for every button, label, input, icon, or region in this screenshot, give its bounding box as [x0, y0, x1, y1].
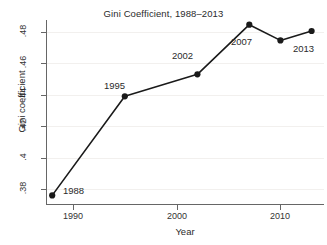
x-tick-label: 1990: [53, 211, 93, 221]
y-tick: [41, 63, 46, 64]
data-series-layer: [0, 0, 327, 245]
gridline: [47, 158, 324, 159]
gridline: [47, 126, 324, 127]
data-point-marker: [194, 71, 200, 77]
x-tick-label: 2000: [157, 211, 197, 221]
gridline: [47, 63, 324, 64]
gridline: [47, 189, 324, 190]
data-point-marker: [277, 37, 283, 43]
data-point-marker: [309, 28, 315, 34]
x-tick: [73, 205, 74, 210]
gridline: [47, 95, 324, 96]
y-tick-label: .38: [18, 175, 28, 201]
y-tick: [41, 126, 46, 127]
point-label: 2007: [231, 36, 252, 47]
point-label: 2013: [293, 43, 314, 54]
y-tick: [41, 95, 46, 96]
x-tick-label: 2010: [260, 211, 300, 221]
y-tick: [41, 32, 46, 33]
x-tick: [280, 205, 281, 210]
x-tick: [177, 205, 178, 210]
gini-series-markers: [49, 22, 315, 199]
x-axis-line: [46, 204, 324, 205]
data-point-marker: [246, 22, 252, 28]
data-point-marker: [49, 192, 55, 198]
y-tick: [41, 158, 46, 159]
x-axis-title: Year: [46, 226, 324, 237]
y-axis-title: Gini coefficient: [16, 37, 27, 167]
chart-title: Gini Coefficient, 1988–2013: [0, 8, 327, 19]
point-label: 1988: [63, 185, 84, 196]
point-label: 1995: [104, 80, 125, 91]
gini-coefficient-line-chart: Gini Coefficient, 1988–2013 .38.4.42.44.…: [0, 0, 327, 245]
point-label: 2002: [172, 50, 193, 61]
y-axis-line: [46, 20, 47, 205]
gridline: [47, 32, 324, 33]
y-tick: [41, 189, 46, 190]
